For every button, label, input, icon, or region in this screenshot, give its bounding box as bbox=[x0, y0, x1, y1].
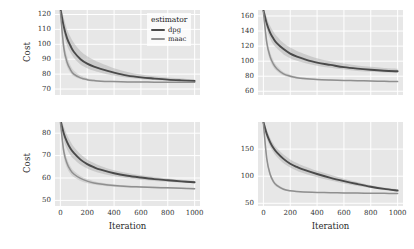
plot-area-bottom-right bbox=[258, 122, 403, 206]
confidence-band-dpg bbox=[263, 122, 397, 191]
plot-area-bottom-left bbox=[55, 122, 200, 206]
y-tick-label: 50 bbox=[224, 200, 254, 207]
x-tick-label: 400 bbox=[99, 210, 129, 217]
x-axis-label: Iteration bbox=[55, 221, 200, 231]
confidence-band-dpg bbox=[263, 10, 397, 73]
y-tick-label: 100 bbox=[224, 173, 254, 180]
y-tick-label: 140 bbox=[224, 28, 254, 35]
legend-title: estimator bbox=[151, 15, 187, 24]
x-tick-label: 400 bbox=[302, 210, 332, 217]
legend-item-maac[interactable]: maac bbox=[151, 35, 187, 43]
x-tick-label: 1000 bbox=[383, 210, 413, 217]
y-tick-label: 120 bbox=[21, 11, 51, 18]
x-tick-label: 600 bbox=[126, 210, 156, 217]
x-tick-label: 200 bbox=[275, 210, 305, 217]
legend-label-dpg: dpg bbox=[168, 26, 181, 34]
legend-swatch-maac bbox=[151, 38, 165, 41]
plot-area-top-right bbox=[258, 10, 403, 95]
y-tick-label: 160 bbox=[224, 13, 254, 20]
y-axis-label: Cost bbox=[22, 133, 32, 193]
y-tick-label: 150 bbox=[224, 146, 254, 153]
x-tick-label: 0 bbox=[248, 210, 278, 217]
y-axis-label: Cost bbox=[22, 22, 32, 82]
x-tick-label: 800 bbox=[153, 210, 183, 217]
legend-label-maac: maac bbox=[168, 35, 186, 43]
y-tick-label: 100 bbox=[224, 58, 254, 65]
y-tick-label: 60 bbox=[224, 88, 254, 95]
gridlines bbox=[258, 10, 403, 95]
y-tick-label: 70 bbox=[21, 86, 51, 93]
confidence-band-dpg bbox=[60, 122, 194, 183]
x-axis-label: Iteration bbox=[258, 221, 403, 231]
y-tick-label: 50 bbox=[21, 197, 51, 204]
x-tick-label: 0 bbox=[45, 210, 75, 217]
gridlines bbox=[55, 122, 200, 206]
y-tick-label: 80 bbox=[224, 73, 254, 80]
legend-swatch-dpg bbox=[151, 29, 165, 32]
legend-item-dpg[interactable]: dpg bbox=[151, 26, 187, 34]
legend: estimatordpgmaac bbox=[147, 13, 191, 46]
x-tick-label: 800 bbox=[356, 210, 386, 217]
x-tick-label: 200 bbox=[72, 210, 102, 217]
x-tick-label: 600 bbox=[329, 210, 359, 217]
x-tick-label: 1000 bbox=[180, 210, 210, 217]
figure-grid: 708090100110120Costestimatordpgmaac60801… bbox=[0, 0, 414, 249]
y-tick-label: 120 bbox=[224, 43, 254, 50]
